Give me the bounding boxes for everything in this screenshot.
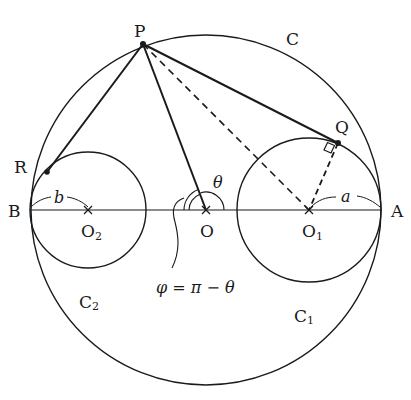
- label-o1: O1: [302, 221, 323, 243]
- label-q: Q: [335, 117, 349, 137]
- point-q: [335, 140, 341, 146]
- label-c: C: [286, 29, 299, 49]
- label-radius-a: a: [341, 187, 351, 206]
- segment-qo1-dashed: [309, 143, 338, 210]
- right-angle-marker-q: [324, 143, 335, 154]
- label-phi-formula: φ = π − θ: [156, 278, 235, 297]
- phi-leader-line: [172, 198, 184, 268]
- radius-a-arrow-right: [357, 196, 380, 207]
- segment-po1-dashed: [143, 44, 309, 210]
- label-c1: C1: [294, 306, 314, 327]
- label-b: B: [8, 201, 21, 221]
- label-theta: θ: [213, 173, 223, 192]
- radius-b-arrow-right: [67, 197, 88, 207]
- label-p: P: [134, 21, 145, 41]
- point-p: [140, 41, 146, 47]
- label-c2: C2: [79, 292, 99, 313]
- label-r: R: [14, 157, 28, 177]
- label-o: O: [200, 221, 214, 241]
- label-o2: O2: [81, 221, 102, 243]
- label-a-point: A: [390, 201, 404, 221]
- radius-b-arrow-left: [31, 197, 51, 207]
- angle-arc-phi-inner: [189, 194, 200, 210]
- geometry-diagram: P C Q R B A O O1 O2 C2 C1 a b θ φ = π − …: [0, 0, 411, 400]
- angle-arc-phi-outer: [184, 190, 198, 211]
- segment-pq: [143, 44, 338, 143]
- label-radius-b: b: [54, 188, 64, 207]
- point-r: [44, 169, 50, 175]
- segment-po: [143, 44, 206, 210]
